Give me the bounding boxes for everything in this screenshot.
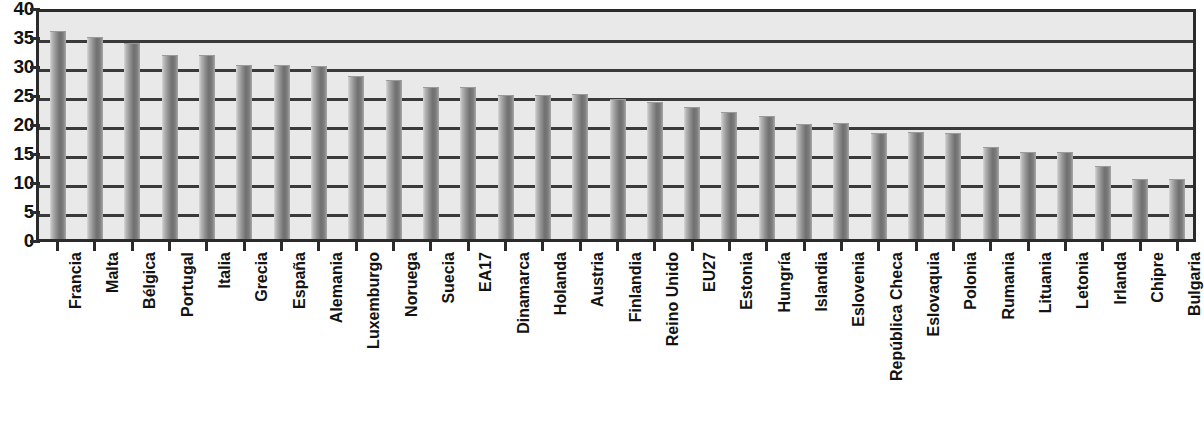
y-tick-label: 35 xyxy=(0,28,34,47)
bar xyxy=(124,43,140,241)
x-tick-label-text: Rumania xyxy=(1001,252,1017,320)
x-tick-label: Suecia xyxy=(437,252,453,304)
bar-slot xyxy=(274,9,290,241)
y-tick-mark xyxy=(30,124,40,127)
x-tick-label-text: Islandia xyxy=(814,252,830,312)
x-tick-label-text: Bélgica xyxy=(142,252,158,309)
bar xyxy=(1132,179,1148,241)
bar-slot xyxy=(460,9,476,241)
x-tick-label-text: Finlandia xyxy=(628,252,644,322)
bar-slot xyxy=(348,9,364,241)
x-tick-label-text: Lituania xyxy=(1038,252,1054,313)
x-tick-label: España xyxy=(288,252,304,309)
bar-slot xyxy=(796,9,812,241)
x-tick-label-text: Eslovaquia xyxy=(926,252,942,336)
x-tick-label: Chipre xyxy=(1146,252,1162,303)
bar xyxy=(759,116,775,241)
bar-slot xyxy=(983,9,999,241)
x-axis-ticks xyxy=(39,242,1196,252)
x-tick-mark xyxy=(541,242,544,251)
bar-slot xyxy=(386,9,402,241)
x-tick-label-text: Grecia xyxy=(254,252,270,302)
x-tick-label: Dinamarca xyxy=(512,252,528,334)
bar-slot xyxy=(311,9,327,241)
x-tick-mark xyxy=(877,242,880,251)
bar-slot xyxy=(87,9,103,241)
bar-slot xyxy=(423,9,439,241)
x-tick-label: Francia xyxy=(64,252,80,309)
bar xyxy=(236,65,252,241)
bar-slot xyxy=(647,9,663,241)
y-tick-mark xyxy=(30,8,40,11)
x-tick-label: EA17 xyxy=(474,252,490,292)
x-tick-label-text: Letonia xyxy=(1075,252,1091,309)
x-tick-mark xyxy=(989,242,992,251)
bar-slot xyxy=(535,9,551,241)
bar-slot xyxy=(1169,9,1185,241)
x-tick-label-text: Reino Unido xyxy=(665,252,681,346)
x-tick-label-text: Polonia xyxy=(963,252,979,310)
x-tick-label: Eslovenia xyxy=(847,252,863,327)
x-tick-mark xyxy=(93,242,96,251)
x-tick-label-text: Portugal xyxy=(180,252,196,317)
bar-slot xyxy=(759,9,775,241)
y-tick-label: 20 xyxy=(0,115,34,134)
x-tick-label-text: Bulgaria xyxy=(1187,252,1203,316)
x-tick-label-text: Suecia xyxy=(441,252,457,304)
y-tick-label: 40 xyxy=(0,0,34,18)
y-tick-mark xyxy=(30,211,40,214)
x-tick-label-text: Irlanda xyxy=(1113,252,1129,304)
x-tick-mark xyxy=(504,242,507,251)
y-tick-mark xyxy=(30,153,40,156)
bar xyxy=(498,95,514,241)
x-tick-mark xyxy=(131,242,134,251)
x-tick-label-text: Malta xyxy=(105,252,121,293)
x-tick-mark xyxy=(429,242,432,251)
x-tick-mark xyxy=(952,242,955,251)
x-tick-mark xyxy=(1101,242,1104,251)
x-tick-label-text: Italia xyxy=(217,252,233,288)
x-tick-mark xyxy=(915,242,918,251)
bar xyxy=(1169,179,1185,241)
y-tick-mark xyxy=(30,95,40,98)
x-tick-label-text: Luxemburgo xyxy=(366,252,382,349)
x-tick-mark xyxy=(1027,242,1030,251)
bar-slot xyxy=(684,9,700,241)
bar xyxy=(1095,166,1111,241)
x-tick-label-text: Hungría xyxy=(777,252,793,312)
x-tick-label-text: República Checa xyxy=(889,252,905,381)
bar xyxy=(796,124,812,241)
x-tick-mark xyxy=(280,242,283,251)
x-tick-label: Alemania xyxy=(325,252,341,323)
x-tick-label-text: Chipre xyxy=(1150,252,1166,303)
x-axis-labels: FranciaMaltaBélgicaPortugalItaliaGreciaE… xyxy=(39,252,1196,412)
x-tick-label: Rumania xyxy=(997,252,1013,320)
bar xyxy=(871,133,887,241)
x-tick-label: Holanda xyxy=(549,252,565,315)
bar-slot xyxy=(199,9,215,241)
x-tick-label: Islandia xyxy=(810,252,826,312)
x-tick-label: Austria xyxy=(586,252,602,307)
x-tick-label-text: España xyxy=(292,252,308,309)
bar xyxy=(572,94,588,241)
bar-slot xyxy=(721,9,737,241)
bar xyxy=(945,133,961,241)
bar xyxy=(1020,152,1036,241)
bar xyxy=(908,132,924,241)
bar xyxy=(460,87,476,241)
x-tick-label: Hungría xyxy=(773,252,789,312)
x-tick-mark xyxy=(355,242,358,251)
x-tick-label: Portugal xyxy=(176,252,192,317)
bar xyxy=(684,107,700,241)
bar xyxy=(721,112,737,241)
x-tick-label-text: EU27 xyxy=(702,252,718,292)
bar-slot xyxy=(833,9,849,241)
x-tick-mark xyxy=(467,242,470,251)
bar xyxy=(535,95,551,241)
x-tick-label-text: Holanda xyxy=(553,252,569,315)
bar-slot xyxy=(236,9,252,241)
bar xyxy=(311,66,327,241)
y-tick-mark xyxy=(30,240,40,243)
x-tick-label: EU27 xyxy=(698,252,714,292)
x-tick-label: Estonia xyxy=(735,252,751,310)
